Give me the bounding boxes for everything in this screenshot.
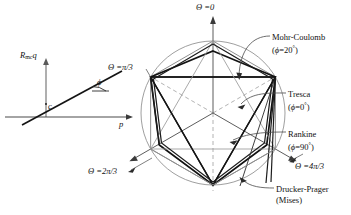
inset-phi-label: ϕ [97, 77, 101, 87]
theta-4pi-3-leader [292, 154, 303, 160]
callout-drucker-prager: Drucker-Prager (Mises) [276, 184, 329, 205]
inset-y-axis-label-tail: q [33, 50, 37, 60]
theta-2pi-3-label: Θ =2π/3 [88, 166, 117, 176]
callout-rankine: Rankine (ϕ=90°) [288, 129, 316, 152]
tresca-leader-arrow [238, 105, 246, 110]
inset-phi-arc [92, 86, 106, 91]
theta-pi-3-label: Θ =π/3 [108, 62, 133, 72]
inset-x-axis-arrow [126, 114, 133, 120]
theta-0-label: Θ =0 [196, 2, 214, 12]
mohr-coulomb-leader [239, 36, 270, 76]
callout-rankine-line1: Rankine [288, 129, 316, 140]
callout-tresca-line1: Tresca [288, 89, 310, 100]
inset-intercept-label: c [48, 101, 52, 111]
inset-y-axis-label: Rmcq [20, 50, 37, 62]
lower-left-edge [151, 149, 213, 185]
callout-mohr-coulomb-line1: Mohr-Coulomb [272, 32, 325, 43]
mohr-coulomb-companion-lower [154, 44, 214, 182]
callout-mohr-coulomb-line2: (ϕ=20°) [272, 43, 325, 56]
theta-4pi-3-label: Θ =4π/3 [295, 161, 324, 171]
callout-rankine-line2: (ϕ=90°) [288, 140, 316, 153]
callout-tresca: Tresca (ϕ=0°) [288, 89, 310, 112]
theta-pi-3-leader [146, 69, 151, 77]
theta-0-axis-arrow [210, 16, 216, 24]
inset-intercept-marker [45, 103, 47, 105]
callout-tresca-line2: (ϕ=0°) [288, 100, 310, 113]
theta-2pi-3-leader-arrow [128, 168, 136, 173]
inset-x-axis-label: p [119, 119, 123, 129]
callout-drucker-prager-line1: Drucker-Prager [276, 184, 329, 195]
inset-y-axis-label-sub: mc [25, 54, 32, 60]
drucker-prager-leader [243, 180, 274, 188]
figure-canvas: Rmcq p ϕ c Θ =0 Θ =π/3 Θ =2π/3 Θ =4π/3 M… [0, 0, 351, 215]
callout-drucker-prager-line2: (Mises) [276, 195, 329, 206]
callout-mohr-coulomb: Mohr-Coulomb (ϕ=20°) [272, 32, 325, 55]
inset-y-axis-arrow [43, 58, 49, 65]
theta-2pi-3-axis-arrow [129, 156, 138, 162]
